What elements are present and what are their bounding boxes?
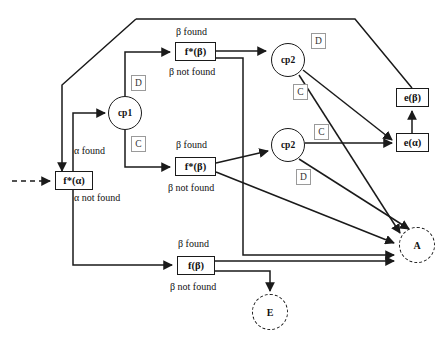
edge-cp2top-to-a [299, 75, 400, 233]
node-e-beta[interactable]: e(β) [396, 88, 429, 107]
node-label: f*(β) [185, 161, 206, 172]
node-f-star-alpha[interactable]: f*(α) [55, 171, 93, 190]
tag-label: C [318, 127, 324, 137]
node-cp2-top[interactable]: cp2 [271, 43, 305, 77]
node-e-alpha[interactable]: e(α) [396, 133, 429, 152]
node-label: e(β) [404, 92, 421, 103]
node-label: f(β) [188, 260, 204, 271]
label-text: α not found [74, 192, 120, 203]
node-a-terminal[interactable]: A [399, 227, 435, 263]
edge-label-alpha-not-found: α not found [74, 192, 120, 203]
node-f-star-beta-top[interactable]: f*(β) [175, 42, 216, 61]
edge-fbetamid-to-cp2bot [216, 151, 268, 163]
diagram-canvas: f*(α) cp1 f*(β) f*(β) f(β) cp2 cp2 e(β) … [0, 0, 448, 343]
node-label: e(α) [404, 137, 422, 148]
edge-fbeta-to-e [215, 271, 270, 291]
edge-label-beta-not-found-bottom: β not found [170, 281, 216, 292]
tag-label: C [135, 139, 141, 149]
label-text: β not found [169, 66, 215, 77]
edge-label-beta-not-found-mid: β not found [168, 182, 214, 193]
label-text: α found [74, 145, 105, 156]
node-label: A [413, 240, 420, 251]
node-e-terminal[interactable]: E [252, 294, 288, 330]
branch-tag-cp2bot-c: C [314, 124, 329, 140]
branch-tag-cp2top-d: D [311, 33, 326, 49]
edge-cp2bot-to-a [299, 159, 409, 229]
node-label: cp1 [118, 108, 132, 118]
edge-label-beta-not-found-top: β not found [169, 66, 215, 77]
branch-tag-cp1-d: D [131, 75, 146, 91]
node-f-star-beta-mid[interactable]: f*(β) [175, 157, 216, 176]
node-f-beta-bottom[interactable]: f(β) [177, 256, 215, 275]
tag-label: D [300, 172, 307, 182]
label-text: β found [176, 26, 207, 37]
tag-label: C [297, 87, 303, 97]
node-label: E [267, 307, 274, 318]
node-label: cp2 [281, 55, 295, 65]
node-label: f*(α) [63, 175, 85, 186]
edge-label-beta-found-mid: β found [176, 139, 207, 150]
label-text: β not found [170, 281, 216, 292]
label-text: β not found [168, 182, 214, 193]
branch-tag-cp1-c: C [131, 136, 146, 152]
node-label: f*(β) [185, 46, 206, 57]
edge-label-alpha-found: α found [74, 145, 105, 156]
node-cp2-bottom[interactable]: cp2 [271, 128, 305, 162]
node-label: cp2 [281, 140, 295, 150]
edge-falpha-to-cp1 [73, 113, 105, 171]
edge-label-beta-found-top: β found [176, 26, 207, 37]
tag-label: D [315, 36, 322, 46]
label-text: β found [176, 139, 207, 150]
edge-label-beta-found-bottom: β found [178, 238, 209, 249]
branch-tag-cp2top-c: C [293, 84, 308, 100]
label-text: β found [178, 238, 209, 249]
tag-label: D [135, 78, 142, 88]
branch-tag-cp2bot-d: D [296, 169, 311, 185]
node-cp1[interactable]: cp1 [108, 96, 142, 130]
